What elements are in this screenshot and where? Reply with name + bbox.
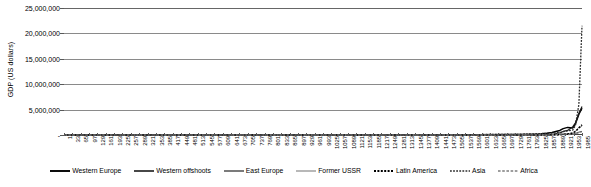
x-tick-mark [423,133,424,136]
x-tick-label: 865 [292,136,298,146]
x-tick-mark [164,133,165,136]
x-tick-mark [298,133,299,136]
x-tick-mark [582,133,583,136]
x-tick-mark [524,133,525,136]
x-tick-mark [365,133,366,136]
legend-item[interactable]: Western Europe [50,167,121,175]
legend-item[interactable]: East Europe [224,167,283,175]
x-tick-label: 257 [133,136,139,146]
x-tick-mark [265,133,266,136]
x-tick-mark [574,133,575,136]
legend-item[interactable]: Former USSR [296,167,361,175]
x-tick-label: 705 [250,136,256,146]
x-tick-mark [281,133,282,136]
x-tick-label: 897 [301,136,307,146]
x-tick-label: 1921 [568,136,574,149]
legend-swatch-icon [450,167,470,175]
x-tick-label: 1409 [434,136,440,149]
x-axis-tick-labels: 1336597129161193225257289321353385417449… [64,136,582,162]
legend-swatch-icon [296,167,316,175]
x-tick-label: 65 [83,136,89,142]
x-tick-label: 577 [217,136,223,146]
x-tick-mark [448,133,449,136]
x-tick-mark [131,133,132,136]
x-tick-mark [507,133,508,136]
series-lines [64,8,582,135]
legend-item[interactable]: Asia [450,167,485,175]
x-tick-label: 449 [184,136,190,146]
legend-item[interactable]: Africa [498,167,537,175]
legend-item[interactable]: Latin America [374,167,437,175]
x-tick-label: 1601 [484,136,490,149]
x-tick-label: 1889 [560,136,566,149]
x-tick-label: 1089 [351,136,357,149]
x-tick-mark [557,133,558,136]
x-tick-label: 1 [67,136,73,139]
x-tick-label: 289 [142,136,148,146]
y-tick-label: 15,000,000 [25,55,60,62]
x-tick-mark [64,133,65,136]
y-tick-label: 10,000,000 [25,81,60,88]
x-tick-label: 417 [175,136,181,146]
x-tick-mark [490,133,491,136]
x-tick-label: 1185 [376,136,382,149]
x-tick-label: 673 [242,136,248,146]
x-tick-mark [239,133,240,136]
x-tick-label: 1217 [384,136,390,149]
legend-item[interactable]: Western offshoots [134,167,211,175]
x-tick-mark [457,133,458,136]
x-tick-mark [373,133,374,136]
x-tick-mark [340,133,341,136]
x-tick-mark [331,133,332,136]
x-tick-label: 833 [284,136,290,146]
x-tick-label: 1121 [359,136,365,149]
x-tick-mark [290,133,291,136]
x-tick-label: 929 [309,136,315,146]
x-tick-mark [189,133,190,136]
x-tick-label: 1281 [401,136,407,149]
x-tick-label: 97 [92,136,98,142]
series-line [64,26,582,135]
x-tick-label: 609 [225,136,231,146]
x-tick-mark [532,133,533,136]
x-tick-label: 193 [117,136,123,146]
x-tick-label: 1153 [367,136,373,149]
x-tick-label: 1857 [551,136,557,149]
x-tick-mark [473,133,474,136]
x-tick-label: 33 [75,136,81,142]
x-tick-label: 1505 [459,136,465,149]
x-tick-mark [148,133,149,136]
x-tick-label: 1953 [576,136,582,149]
x-tick-mark [122,133,123,136]
x-tick-mark [549,133,550,136]
x-tick-mark [515,133,516,136]
y-tick-label: 5,000,000 [29,106,60,113]
x-tick-label: 1729 [518,136,524,149]
legend-label: Former USSR [318,168,361,175]
x-tick-label: 1665 [501,136,507,149]
x-tick-mark [390,133,391,136]
x-tick-mark [256,133,257,136]
x-tick-mark [381,133,382,136]
x-tick-mark [206,133,207,136]
x-tick-label: 801 [275,136,281,146]
x-tick-mark [248,133,249,136]
x-tick-mark [181,133,182,136]
x-tick-label: 481 [192,136,198,146]
x-tick-label: 1441 [443,136,449,149]
x-tick-mark [114,133,115,136]
x-tick-mark [407,133,408,136]
x-tick-mark [498,133,499,136]
x-tick-mark [72,133,73,136]
x-tick-label: 993 [326,136,332,146]
x-tick-mark [440,133,441,136]
x-tick-label: 1633 [493,136,499,149]
x-tick-label: 1793 [534,136,540,149]
y-tick-label: 20,000,000 [25,30,60,37]
legend-label: Latin America [396,168,437,175]
x-tick-label: 1025 [334,136,340,149]
x-tick-mark [323,133,324,136]
legend-label: Western Europe [72,168,121,175]
x-tick-mark [356,133,357,136]
x-tick-mark [432,133,433,136]
